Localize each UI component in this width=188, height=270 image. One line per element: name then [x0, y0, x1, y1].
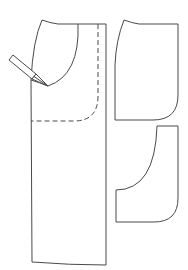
main-panel — [31, 20, 106, 265]
main-panel-outline — [31, 20, 106, 265]
pocket-lining-upper-outline — [115, 20, 178, 120]
sewing-pattern-diagram — [0, 0, 188, 270]
pocket-lining-upper — [115, 20, 178, 120]
pocket-facing-lower — [116, 126, 178, 222]
pocket-facing-lower-outline — [116, 126, 178, 222]
